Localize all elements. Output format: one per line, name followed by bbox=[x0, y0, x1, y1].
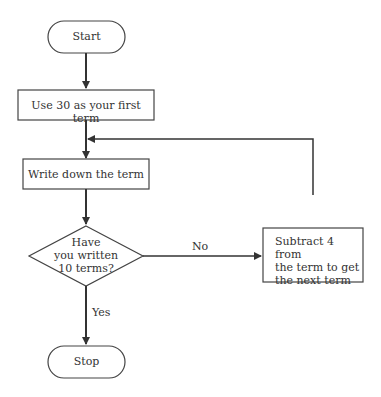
subtract-label: Subtract 4 from the term to get the next… bbox=[275, 235, 361, 287]
decision-line-2: you written bbox=[46, 249, 126, 262]
subtract-line-3: the next term bbox=[275, 274, 361, 287]
start-label: Start bbox=[48, 30, 125, 43]
first-term-label: Use 30 as your first term bbox=[18, 99, 154, 125]
subtract-line-1: Subtract 4 from bbox=[275, 235, 361, 261]
decision-line-1: Have bbox=[46, 236, 126, 249]
no-label: No bbox=[188, 240, 212, 253]
subtract-line-2: the term to get bbox=[275, 261, 361, 274]
flowchart-canvas bbox=[0, 0, 381, 397]
decision-line-3: 10 terms? bbox=[46, 262, 126, 275]
yes-label: Yes bbox=[92, 306, 120, 319]
write-term-label: Write down the term bbox=[23, 168, 149, 181]
decision-label: Have you written 10 terms? bbox=[46, 236, 126, 275]
stop-label: Stop bbox=[48, 355, 125, 368]
